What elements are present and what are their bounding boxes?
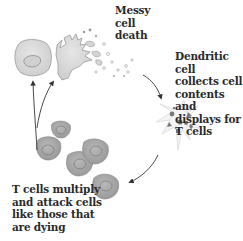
t-cell-icon xyxy=(51,121,70,138)
dendritic-cell-label: Dendritic cell collects cell contents an… xyxy=(175,50,243,138)
messy-cell-death-label: Messy cell death xyxy=(115,4,150,42)
t-cell-icon xyxy=(37,137,61,160)
t-cells-label: T cells multiply and attack cells like t… xyxy=(12,183,102,233)
healthy-cell-icon xyxy=(15,39,52,75)
immune-cycle-diagram: Messy cell death Dendritic cell collects… xyxy=(0,0,243,241)
arrow-to-dendritic xyxy=(143,75,161,98)
arrow-to-tcells xyxy=(130,155,158,182)
t-cell-icon xyxy=(83,139,109,164)
